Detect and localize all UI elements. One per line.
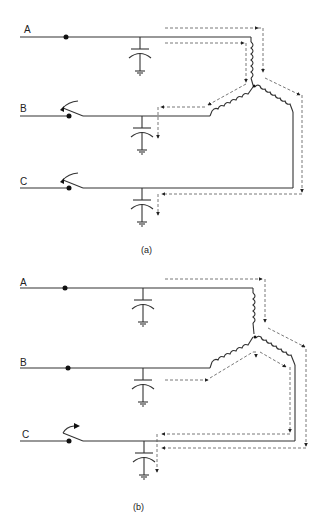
circuit-diagram: A B C [0, 0, 325, 527]
panel-b: A B C [20, 277, 306, 512]
capacitor-c-b [133, 441, 155, 479]
capacitor-a [129, 37, 151, 75]
capacitor-b-b [132, 368, 154, 406]
phase-b-label-b: B [20, 357, 27, 368]
phase-a-label: A [24, 24, 31, 35]
capacitor-c [131, 188, 153, 226]
arrow-icon [60, 106, 64, 112]
capacitor-a-b [132, 288, 154, 326]
panel-a: A B C [20, 24, 302, 255]
capacitor-b [131, 116, 153, 154]
phase-a-label-b: A [20, 277, 27, 288]
node-dot [64, 35, 69, 40]
caption-a: (a) [141, 245, 152, 255]
phase-b-label: B [20, 103, 27, 114]
phase-c-label-b: C [22, 429, 29, 440]
caption-b: (b) [133, 502, 144, 512]
phase-c-label: C [20, 176, 27, 187]
